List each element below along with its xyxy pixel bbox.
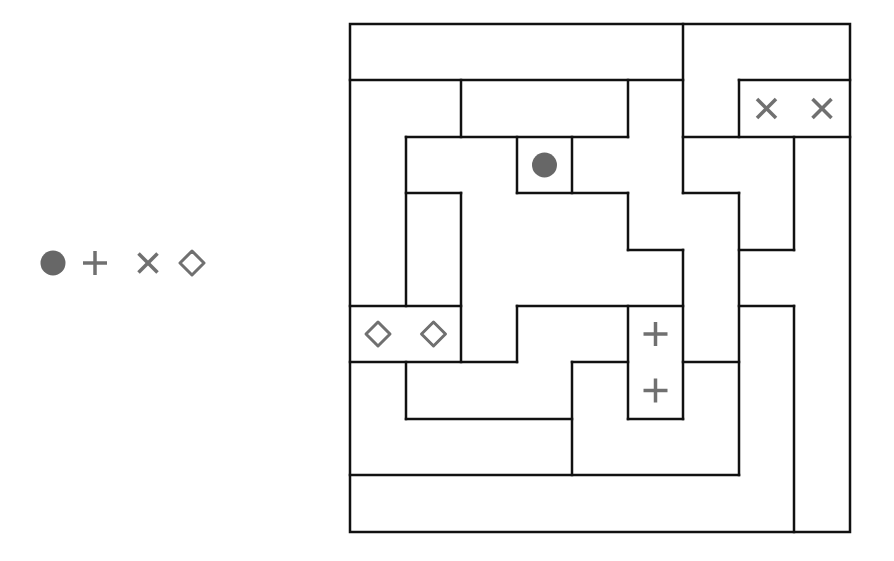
grid-cell-r3-c1[interactable]: [406, 193, 461, 250]
grid-cell-r6-c4[interactable]: [572, 362, 628, 419]
grid-cell-r5-c2[interactable]: [461, 306, 517, 362]
grid-cell-r6-c7[interactable]: [739, 362, 794, 419]
grid-cell-r1-c6[interactable]: [683, 80, 739, 137]
grid-cell-r4-c5[interactable]: [628, 250, 683, 306]
grid-cell-r5-c1[interactable]: [406, 306, 461, 362]
grid-cell-r8-c7[interactable]: [739, 475, 794, 532]
grid-cell-r7-c5[interactable]: [628, 419, 683, 475]
grid-cell-r7-c1[interactable]: [406, 419, 461, 475]
grid-cell-r8-c8[interactable]: [794, 475, 850, 532]
grid-cell-r8-c0[interactable]: [350, 475, 406, 532]
grid-cell-r7-c4[interactable]: [572, 419, 628, 475]
grid-cell-r0-c1[interactable]: [406, 24, 461, 80]
grid-cell-r1-c0[interactable]: [350, 80, 406, 137]
grid-cell-r1-c5[interactable]: [628, 80, 683, 137]
grid-cell-r6-c2[interactable]: [461, 362, 517, 419]
grid-cell-r4-c6[interactable]: [683, 250, 739, 306]
grid-cell-r1-c2[interactable]: [461, 80, 517, 137]
grid-cell-r6-c0[interactable]: [350, 362, 406, 419]
grid-cell-r2-c2[interactable]: [461, 137, 517, 193]
board-dot-icon: [532, 153, 557, 178]
grid-cell-r2-c6[interactable]: [683, 137, 739, 193]
grid-cell-r0-c6[interactable]: [683, 24, 739, 80]
grid-cell-r4-c8[interactable]: [794, 250, 850, 306]
grid-cell-r2-c8[interactable]: [794, 137, 850, 193]
grid-cell-r4-c0[interactable]: [350, 250, 406, 306]
grid-cell-r8-c2[interactable]: [461, 475, 517, 532]
grid-cell-r2-c0[interactable]: [350, 137, 406, 193]
grid-cell-r8-c6[interactable]: [683, 475, 739, 532]
grid-cell-r3-c3[interactable]: [517, 193, 572, 250]
grid-cell-r7-c7[interactable]: [739, 419, 794, 475]
puzzle-board[interactable]: [0, 0, 894, 561]
grid-cell-r4-c4[interactable]: [572, 250, 628, 306]
grid-cell-r3-c0[interactable]: [350, 193, 406, 250]
grid-cell-r2-c5[interactable]: [628, 137, 683, 193]
grid-cell-r8-c1[interactable]: [406, 475, 461, 532]
grid-cell-r0-c8[interactable]: [794, 24, 850, 80]
grid-cell-r6-c8[interactable]: [794, 362, 850, 419]
grid-cell-r3-c8[interactable]: [794, 193, 850, 250]
grid-cell-r0-c7[interactable]: [739, 24, 794, 80]
grid-cell-r3-c5[interactable]: [628, 193, 683, 250]
grid-cell-r4-c2[interactable]: [461, 250, 517, 306]
grid-cell-r6-c3[interactable]: [517, 362, 572, 419]
grid-cell-r7-c2[interactable]: [461, 419, 517, 475]
grid-cell-r2-c4[interactable]: [572, 137, 628, 193]
grid-cell-r4-c7[interactable]: [739, 250, 794, 306]
grid-cell-r1-c3[interactable]: [517, 80, 572, 137]
grid-cell-r5-c7[interactable]: [739, 306, 794, 362]
grid-cell-r0-c5[interactable]: [628, 24, 683, 80]
grid-cell-r5-c6[interactable]: [683, 306, 739, 362]
grid-cell-r3-c7[interactable]: [739, 193, 794, 250]
grid-cell-r6-c6[interactable]: [683, 362, 739, 419]
grid-cell-r3-c4[interactable]: [572, 193, 628, 250]
grid-cell-r7-c3[interactable]: [517, 419, 572, 475]
grid-cell-r0-c2[interactable]: [461, 24, 517, 80]
grid-cell-r5-c8[interactable]: [794, 306, 850, 362]
grid-cell-r7-c8[interactable]: [794, 419, 850, 475]
grid-cell-r1-c4[interactable]: [572, 80, 628, 137]
grid-cell-r7-c6[interactable]: [683, 419, 739, 475]
grid-cell-r4-c3[interactable]: [517, 250, 572, 306]
grid-cell-r0-c0[interactable]: [350, 24, 406, 80]
grid-cell-r7-c0[interactable]: [350, 419, 406, 475]
grid-cell-r3-c6[interactable]: [683, 193, 739, 250]
grid-cell-r5-c3[interactable]: [517, 306, 572, 362]
grid-cell-r8-c5[interactable]: [628, 475, 683, 532]
grid-cell-r0-c4[interactable]: [572, 24, 628, 80]
grid-cell-r3-c2[interactable]: [461, 193, 517, 250]
grid-cell-r8-c3[interactable]: [517, 475, 572, 532]
grid-cell-r6-c1[interactable]: [406, 362, 461, 419]
grid-cell-r5-c0[interactable]: [350, 306, 406, 362]
puzzle-stage: [0, 0, 894, 561]
grid-cell-r0-c3[interactable]: [517, 24, 572, 80]
grid-cell-r5-c4[interactable]: [572, 306, 628, 362]
grid-cell-r2-c7[interactable]: [739, 137, 794, 193]
grid-cell-r2-c1[interactable]: [406, 137, 461, 193]
grid-cell-r1-c1[interactable]: [406, 80, 461, 137]
grid-cell-r4-c1[interactable]: [406, 250, 461, 306]
grid-cell-r8-c4[interactable]: [572, 475, 628, 532]
